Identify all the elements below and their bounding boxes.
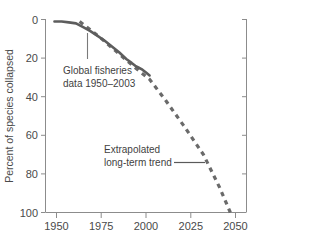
y-axis-title: Percent of species collapsed bbox=[3, 49, 15, 183]
y-tick-label-100: 100 bbox=[20, 207, 38, 219]
trend-annotation-line-1: Extrapolated bbox=[104, 144, 160, 155]
x-tick-label-2025: 2025 bbox=[179, 220, 203, 232]
x-tick-label-1950: 1950 bbox=[44, 220, 68, 232]
data-annotation-line-1: Global fisheries bbox=[63, 65, 132, 76]
chart-svg: 0 20 40 60 80 100 1950 1975 2000 2025 20… bbox=[0, 0, 312, 246]
x-tick-label-1975: 1975 bbox=[89, 220, 113, 232]
y-tick-label-40: 40 bbox=[26, 91, 38, 103]
chart-background bbox=[0, 0, 312, 246]
x-tick-label-2000: 2000 bbox=[134, 220, 158, 232]
chart-figure: 0 20 40 60 80 100 1950 1975 2000 2025 20… bbox=[0, 0, 312, 246]
y-tick-label-60: 60 bbox=[26, 129, 38, 141]
y-tick-label-0: 0 bbox=[32, 14, 38, 26]
y-tick-label-80: 80 bbox=[26, 168, 38, 180]
trend-annotation-line-2: long-term trend bbox=[104, 157, 172, 168]
x-tick-label-2050: 2050 bbox=[223, 220, 247, 232]
y-tick-label-20: 20 bbox=[26, 52, 38, 64]
data-annotation-line-2: data 1950–2003 bbox=[63, 78, 136, 89]
